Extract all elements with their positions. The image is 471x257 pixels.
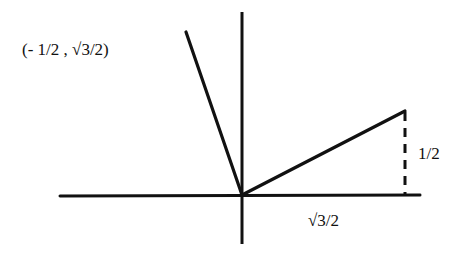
x-axis [60,195,420,196]
vertical-leg-label: 1/2 [418,145,440,162]
ray-to-second-quadrant-point [186,32,242,195]
diagram-canvas [0,0,471,257]
point-coordinate-label: (- 1/2 , √3/2) [22,41,109,58]
horizontal-leg-label: √3/2 [308,212,339,229]
ray-to-first-quadrant-point [242,111,405,195]
